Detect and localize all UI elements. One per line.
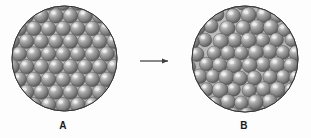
sphere-highlight <box>259 84 263 88</box>
sphere-highlight <box>15 49 19 53</box>
sphere-highlight <box>66 37 70 41</box>
sphere <box>107 59 122 74</box>
sphere-highlight <box>244 35 249 39</box>
sphere-highlight <box>292 48 296 52</box>
sphere-highlight <box>44 49 48 53</box>
sphere <box>78 59 93 74</box>
sphere-highlight <box>203 85 207 88</box>
sphere <box>34 59 49 74</box>
sphere <box>100 21 115 36</box>
sphere-highlight <box>266 23 271 27</box>
sphere-highlight <box>88 75 92 79</box>
sphere-highlight <box>215 60 219 64</box>
sphere-highlight <box>245 86 249 89</box>
sphere <box>34 9 49 24</box>
sphere <box>70 47 85 62</box>
sphere-highlight <box>266 73 270 76</box>
sphere <box>34 85 49 100</box>
sphere-highlight <box>224 48 228 52</box>
sphere <box>92 59 107 74</box>
sphere-highlight <box>223 24 228 28</box>
sphere-highlight <box>22 11 26 15</box>
sphere <box>262 94 277 109</box>
sphere-highlight <box>59 24 63 28</box>
sphere-highlight <box>223 97 228 101</box>
sphere <box>12 47 27 62</box>
sphere-highlight <box>37 37 41 41</box>
sphere <box>56 47 71 62</box>
sphere-highlight <box>239 23 243 26</box>
sphere-highlight <box>117 49 121 53</box>
sphere-highlight <box>252 22 257 26</box>
sphere <box>70 72 85 87</box>
sphere-highlight <box>202 60 206 63</box>
sphere-highlight <box>279 100 283 103</box>
sphere <box>19 59 34 74</box>
sphere-highlight <box>73 75 77 79</box>
sphere-highlight <box>258 36 262 39</box>
sphere <box>100 72 115 87</box>
sphere-highlight <box>51 37 55 41</box>
sphere <box>56 21 71 36</box>
sphere <box>85 47 100 62</box>
sphere <box>227 33 242 48</box>
sphere-highlight <box>272 60 277 64</box>
sphere-highlight <box>230 36 234 40</box>
sphere-highlight <box>213 10 217 13</box>
sphere-packing-figure <box>0 0 311 138</box>
sphere <box>78 34 93 49</box>
sphere-highlight <box>95 88 99 92</box>
panel-a-sphere-field <box>5 0 129 112</box>
sphere-highlight <box>59 0 63 2</box>
sphere <box>206 69 220 83</box>
sphere <box>256 57 271 72</box>
sphere <box>19 34 34 49</box>
sphere <box>19 9 34 24</box>
sphere-highlight <box>66 11 70 15</box>
sphere <box>198 33 212 47</box>
sphere-highlight <box>238 0 242 2</box>
sphere-highlight <box>110 62 114 65</box>
sphere-highlight <box>30 49 34 53</box>
sphere-highlight <box>273 85 278 89</box>
sphere-highlight <box>15 24 19 28</box>
sphere-highlight <box>88 24 92 28</box>
sphere-highlight <box>185 63 189 66</box>
sphere <box>85 21 100 36</box>
sphere-highlight <box>44 100 48 104</box>
sphere <box>63 85 78 100</box>
sphere-highlight <box>73 24 77 28</box>
sphere-highlight <box>288 36 292 39</box>
sphere <box>63 9 78 24</box>
sphere-highlight <box>251 97 256 101</box>
sphere-highlight <box>187 37 192 41</box>
sphere <box>19 85 34 100</box>
sphere-highlight <box>66 62 70 65</box>
sphere <box>249 20 264 35</box>
sphere-highlight <box>37 88 41 92</box>
sphere-highlight <box>81 11 85 15</box>
sphere <box>248 95 263 110</box>
sphere-highlight <box>195 72 199 76</box>
sphere-highlight <box>201 36 205 39</box>
sphere-highlight <box>259 10 264 14</box>
sphere-highlight <box>215 85 220 89</box>
sphere <box>49 34 64 49</box>
panel-a-label: A <box>53 120 73 132</box>
sphere-highlight <box>222 72 227 76</box>
sphere <box>100 47 115 62</box>
sphere-highlight <box>95 62 99 65</box>
sphere <box>56 72 71 87</box>
sphere-highlight <box>287 61 291 65</box>
sphere <box>27 72 42 87</box>
panel-b-label: B <box>234 120 254 132</box>
sphere <box>70 21 85 36</box>
sphere-highlight <box>236 74 240 77</box>
sphere <box>63 59 78 74</box>
figure-stage: A B <box>0 0 311 138</box>
sphere-highlight <box>73 0 77 2</box>
sphere-highlight <box>194 24 198 27</box>
sphere-highlight <box>244 10 249 14</box>
sphere <box>78 85 93 100</box>
sphere <box>204 19 218 33</box>
